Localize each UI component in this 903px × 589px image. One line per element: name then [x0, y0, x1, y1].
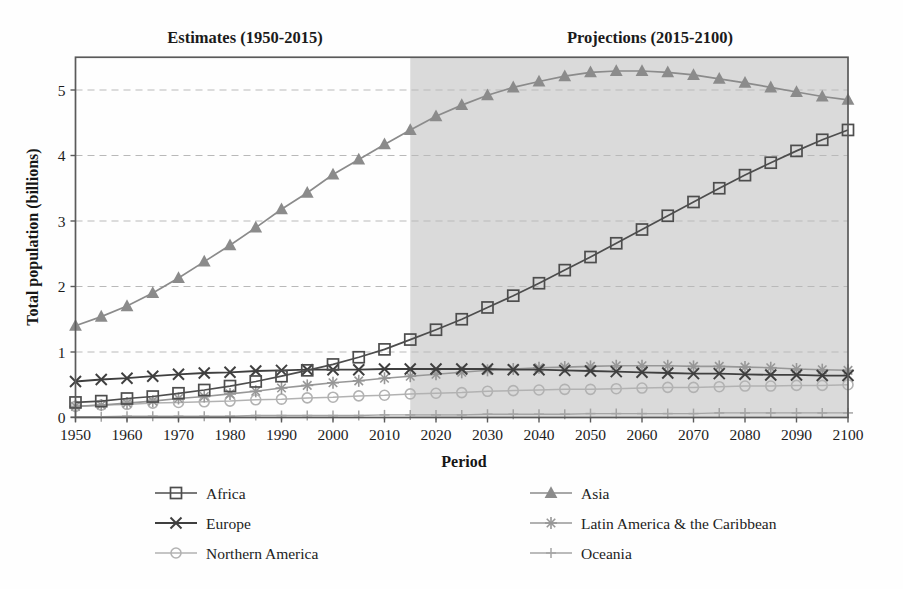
legend-label-northern-america: Northern America	[206, 545, 318, 562]
x-tick-label: 2070	[678, 426, 709, 443]
x-tick-label: 1950	[60, 426, 91, 443]
x-tick-label: 2080	[730, 426, 761, 443]
x-tick-label: 2000	[318, 426, 349, 443]
legend-item-africa: Africa	[155, 485, 246, 502]
x-axis-label: Period	[441, 453, 486, 470]
legend-label-europe: Europe	[206, 515, 251, 532]
legend-label-africa: Africa	[206, 485, 246, 502]
population-chart: 1950196019701980199020002010202020302040…	[0, 0, 903, 589]
legend-label-asia: Asia	[581, 485, 610, 502]
legend-item-asia: Asia	[530, 485, 610, 502]
legend-marker-latin-america-the-caribbean-icon	[545, 517, 557, 529]
y-tick-label: 3	[58, 213, 66, 230]
legend-item-latin-america-the-caribbean: Latin America & the Caribbean	[530, 515, 777, 532]
legend-marker-oceania-icon	[546, 548, 556, 558]
y-tick-label: 5	[58, 82, 66, 99]
legend-item-northern-america: Northern America	[155, 545, 318, 562]
scanned-population-figure: 1950196019701980199020002010202020302040…	[0, 0, 903, 589]
x-tick-label: 2050	[575, 426, 606, 443]
y-axis-label: Total population (billions)	[24, 148, 42, 325]
x-tick-label: 1990	[266, 426, 297, 443]
x-tick-label: 2090	[781, 426, 812, 443]
y-tick-label: 4	[58, 147, 66, 164]
y-tick-label: 1	[58, 344, 66, 361]
x-tick-label: 2010	[369, 426, 400, 443]
x-tick-label: 2040	[524, 426, 555, 443]
legend-label-oceania: Oceania	[581, 545, 632, 562]
estimates-title: Estimates (1950-2015)	[167, 28, 322, 47]
legend-item-europe: Europe	[155, 515, 251, 532]
x-tick-label: 2020	[421, 426, 452, 443]
x-tick-label: 2060	[627, 426, 658, 443]
legend: AfricaEuropeNorthern AmericaAsiaLatin Am…	[155, 485, 777, 562]
x-tick-label: 2100	[833, 426, 864, 443]
projections-title: Projections (2015-2100)	[567, 28, 733, 47]
x-tick-label: 1980	[215, 426, 246, 443]
y-tick-label: 2	[58, 278, 66, 295]
legend-item-oceania: Oceania	[530, 545, 632, 562]
y-tick-label: 0	[58, 409, 66, 426]
x-tick-label: 2030	[472, 426, 503, 443]
x-tick-label: 1960	[112, 426, 143, 443]
legend-marker-asia-icon	[545, 486, 558, 498]
legend-label-latin-america-the-caribbean: Latin America & the Caribbean	[581, 515, 777, 532]
x-tick-label: 1970	[163, 426, 194, 443]
